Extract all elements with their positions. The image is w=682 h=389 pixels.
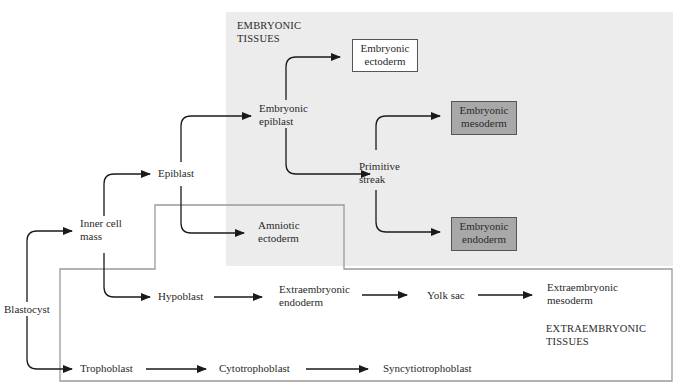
node-embryonic-endoderm: Embryonic endoderm bbox=[451, 217, 517, 251]
node-label-line: ectoderm bbox=[258, 232, 300, 245]
node-trophoblast: Trophoblast bbox=[80, 362, 133, 375]
node-extraembryonic-mesoderm: Extraembryonic mesoderm bbox=[547, 281, 618, 307]
arrow-icm-epiblast bbox=[104, 174, 150, 216]
node-epiblast: Epiblast bbox=[158, 167, 194, 180]
node-label-line: Amniotic bbox=[258, 219, 300, 232]
node-syncytiotrophoblast: Syncytiotrophoblast bbox=[383, 362, 472, 375]
node-label-line: Embryonic bbox=[359, 42, 411, 55]
arrow-icm-hypoblast bbox=[104, 253, 150, 297]
node-label-line: streak bbox=[359, 173, 400, 186]
node-label-line: Extraembryonic bbox=[547, 281, 618, 294]
arrow-epiblast-embryonic-epiblast bbox=[181, 116, 251, 162]
arrow-streak-endoderm bbox=[376, 190, 440, 232]
arrow-streak-mesoderm bbox=[376, 116, 440, 150]
node-inner-cell-mass: Inner cell mass bbox=[80, 217, 122, 243]
node-primitive-streak: Primitive streak bbox=[359, 160, 400, 186]
node-label-line: mass bbox=[80, 230, 122, 243]
embryonic-title-line2: TISSUES bbox=[237, 32, 301, 45]
node-label-line: Embryonic bbox=[458, 104, 510, 117]
node-hypoblast: Hypoblast bbox=[158, 290, 203, 303]
node-label-line: Extraembryonic bbox=[279, 283, 350, 296]
node-embryonic-ectoderm: Embryonic ectoderm bbox=[352, 39, 418, 72]
node-label-line: mesoderm bbox=[458, 117, 510, 130]
arrow-epiblast-streak bbox=[286, 128, 370, 174]
node-label-line: Embryonic bbox=[259, 102, 308, 115]
node-label-line: epiblast bbox=[259, 115, 308, 128]
embryonic-region-title: EMBRYONIC TISSUES bbox=[237, 19, 301, 45]
node-label-line: Primitive bbox=[359, 160, 400, 173]
extraembryonic-region-title: EXTRAEMBRYONIC TISSUES bbox=[546, 322, 646, 348]
node-amniotic-ectoderm: Amniotic ectoderm bbox=[258, 219, 300, 245]
extraembryonic-title-line1: EXTRAEMBRYONIC bbox=[546, 322, 646, 335]
arrow-epiblast-ectoderm bbox=[286, 57, 340, 100]
node-label-line: endoderm bbox=[458, 233, 510, 246]
node-label-line: endoderm bbox=[279, 296, 350, 309]
node-extraembryonic-endoderm: Extraembryonic endoderm bbox=[279, 283, 350, 309]
extraembryonic-title-line2: TISSUES bbox=[546, 335, 646, 348]
node-label-line: mesoderm bbox=[547, 294, 618, 307]
node-label-line: Embryonic bbox=[458, 220, 510, 233]
node-yolk-sac: Yolk sac bbox=[427, 289, 465, 302]
node-embryonic-mesoderm: Embryonic mesoderm bbox=[451, 101, 517, 135]
node-label-line: Inner cell bbox=[80, 217, 122, 230]
arrow-blastocyst-icm bbox=[27, 231, 72, 302]
node-label-line: ectoderm bbox=[359, 55, 411, 68]
arrow-blastocyst-trophoblast bbox=[27, 316, 72, 369]
embryonic-title-line1: EMBRYONIC bbox=[237, 19, 301, 32]
node-cytotrophoblast: Cytotrophoblast bbox=[219, 362, 290, 375]
node-embryonic-epiblast: Embryonic epiblast bbox=[259, 102, 308, 128]
node-blastocyst: Blastocyst bbox=[4, 303, 50, 316]
arrow-epiblast-amniotic bbox=[181, 186, 244, 233]
